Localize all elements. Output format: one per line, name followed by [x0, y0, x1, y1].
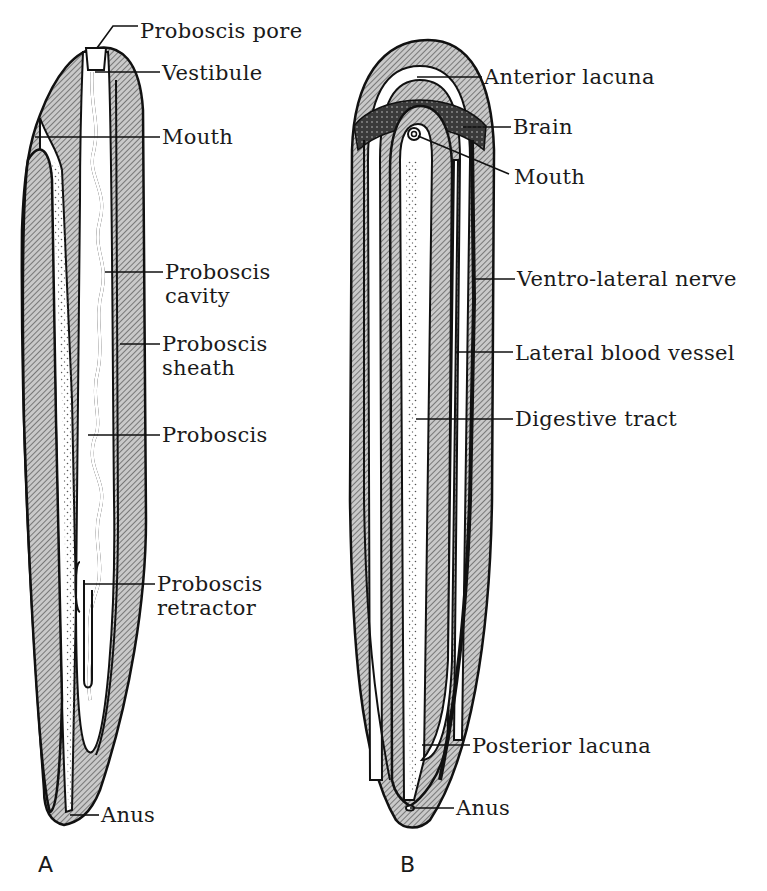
- annotation-label: Anus: [455, 796, 510, 820]
- annotation-label: Proboscis: [162, 332, 268, 356]
- annotation-b-lateral-blood-vessel: Lateral blood vessel: [455, 341, 735, 365]
- annotation-label: sheath: [162, 356, 235, 380]
- annotation-label: Posterior lacuna: [472, 734, 651, 758]
- annotation-label: Proboscis pore: [140, 19, 302, 43]
- annotation-label: Lateral blood vessel: [515, 341, 735, 365]
- annotation-label: Anus: [100, 803, 155, 827]
- annotation-a-proboscis-pore: Proboscis pore: [97, 19, 302, 48]
- annotation-label: Brain: [513, 115, 573, 139]
- annotation-label: Proboscis: [162, 423, 268, 447]
- annotation-label: Ventro-lateral nerve: [516, 267, 737, 291]
- panel-label-b: B: [400, 852, 415, 877]
- mouth-b: [408, 128, 420, 140]
- annotation-label: retractor: [157, 596, 257, 620]
- annotation-label: Proboscis: [157, 572, 263, 596]
- annotation-label: Anterior lacuna: [483, 65, 655, 89]
- annotation-label: Digestive tract: [515, 407, 677, 431]
- panel-label-a: A: [38, 852, 53, 877]
- annotation-label: Mouth: [514, 165, 585, 189]
- nemertean-anatomy-diagram: AProboscis poreVestibuleMouthProboscisca…: [0, 0, 767, 891]
- annotation-b-ventro-lateral-nerve: Ventro-lateral nerve: [473, 267, 737, 291]
- annotation-label: cavity: [165, 284, 230, 308]
- panel-a-drawing: [22, 47, 146, 825]
- leader-line: [97, 26, 138, 48]
- annotation-label: Mouth: [162, 125, 233, 149]
- annotation-label: Proboscis: [165, 260, 271, 284]
- annotation-label: Vestibule: [161, 61, 262, 85]
